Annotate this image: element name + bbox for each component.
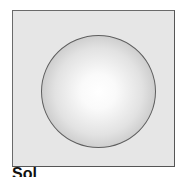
shaded-sphere [41, 35, 156, 148]
figure-caption: Sol [12, 166, 37, 177]
